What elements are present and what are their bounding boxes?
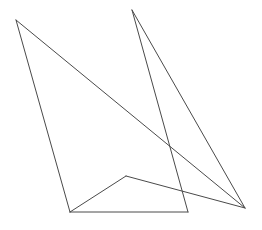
geometric-figure-canvas: [0, 0, 262, 230]
